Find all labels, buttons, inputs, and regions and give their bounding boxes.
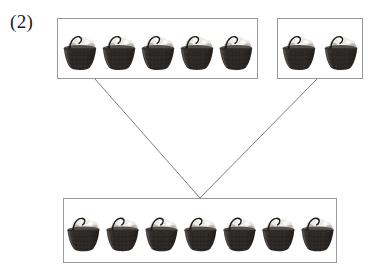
basket-row-sum [64,199,336,262]
basket-item [65,208,102,256]
basket-row-addend-1 [58,19,257,78]
basket-item [139,28,177,73]
group-box-sum [63,198,337,263]
group-box-addend-2 [277,18,363,79]
problem-number-label: (2) [10,11,33,33]
basket-item [61,28,99,73]
group-box-addend-1 [57,18,258,79]
worksheet-canvas: (2) [0,0,377,278]
basket-item [260,208,297,256]
basket-item [322,28,360,73]
basket-item [280,28,318,73]
basket-item [299,208,336,256]
basket-item [182,208,219,256]
basket-item [217,28,255,73]
basket-row-addend-2 [278,19,362,78]
basket-item [100,28,138,73]
basket-item [178,28,216,73]
basket-item [104,208,141,256]
connector-line-left [95,79,200,198]
connector-line-right [200,79,317,198]
basket-item [221,208,258,256]
basket-item [143,208,180,256]
